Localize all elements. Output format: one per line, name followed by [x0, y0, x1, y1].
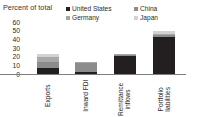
bar-group-portfolio-liabilities [153, 31, 175, 74]
x-tick-label-inward-fdi: Inward FDI [75, 76, 97, 116]
x-tick-label-text: Exports [44, 85, 51, 107]
x-tick-label-text: Portfolio liabilities [157, 87, 172, 112]
x-axis-baseline [0, 74, 186, 75]
bar-group-inward-fdi [75, 62, 97, 74]
bar-group-remittance-inflows [114, 54, 136, 74]
y-tick-label-50: 50 [2, 27, 20, 34]
bar-segment-remittance-inflows-united-states [114, 56, 136, 74]
x-tick-label-remittance-inflows: Remittance inflows [114, 76, 136, 116]
x-tick-label-text: Remittance inflows [118, 83, 133, 116]
chart-figure: Percent of total United States China Ger… [0, 0, 206, 117]
bar-segment-inward-fdi-china [75, 63, 97, 73]
x-tick-label-text: Inward FDI [82, 80, 89, 112]
y-axis-tick-labels: 6050403020100 [0, 0, 20, 117]
bar-group-exports [37, 54, 59, 74]
y-tick-label-60: 60 [2, 19, 20, 26]
y-tick-label-30: 30 [2, 45, 20, 52]
x-tick-label-exports: Exports [37, 76, 59, 116]
bar-segment-portfolio-liabilities-united-states [153, 37, 175, 74]
y-tick-label-20: 20 [2, 53, 20, 60]
x-tick-label-portfolio-liabilities: Portfolio liabilities [153, 76, 175, 116]
x-axis-tick-labels: ExportsInward FDIRemittance inflowsPortf… [22, 76, 206, 117]
y-tick-label-40: 40 [2, 36, 20, 43]
y-tick-label-10: 10 [2, 62, 20, 69]
